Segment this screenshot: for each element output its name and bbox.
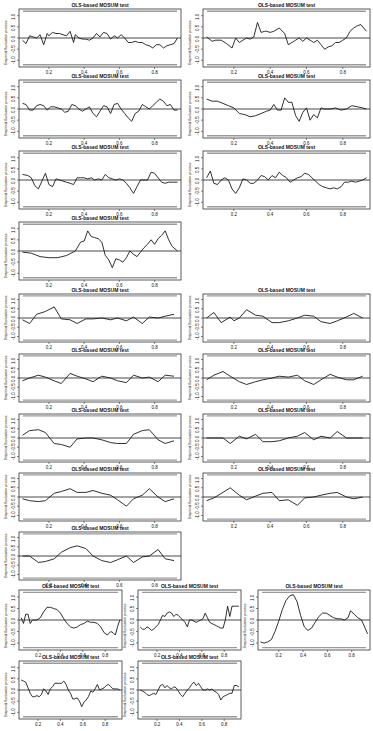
y-tick-label: -1.0 bbox=[130, 709, 135, 717]
y-tick-label: 0.5 bbox=[130, 677, 135, 683]
x-tick-label: 0.4 bbox=[176, 722, 182, 727]
y-tick-label: 0.0 bbox=[130, 688, 135, 694]
y-tick-label: 1.0 bbox=[130, 665, 135, 671]
plot-area bbox=[0, 0, 373, 731]
fluctuation-process-line bbox=[140, 682, 239, 700]
y-axis-label: Empirical fluctuation process bbox=[123, 672, 127, 717]
x-tick-label: 0.8 bbox=[221, 722, 227, 727]
x-tick-label: 0.6 bbox=[199, 722, 205, 727]
y-tick-label: -0.5 bbox=[130, 697, 135, 705]
x-tick-label: 0.2 bbox=[154, 722, 160, 727]
